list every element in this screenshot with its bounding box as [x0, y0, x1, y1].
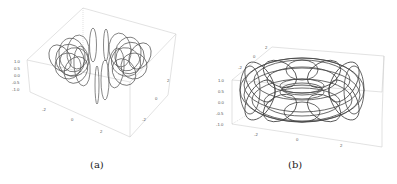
- svg-text:0: 0: [253, 54, 256, 59]
- plot-a: 1.0 0.5 0.0 -0.5 -1.0 -2 0 2 2 0 -2: [0, 0, 200, 184]
- torus-curves-b: [239, 55, 366, 128]
- figure-panel-b: 1.0 0.5 0.0 -0.5 -1.0 -2 0 2 -2 0 2 (b): [200, 0, 397, 184]
- svg-text:0.0: 0.0: [14, 73, 20, 78]
- svg-text:0.5: 0.5: [218, 89, 224, 94]
- svg-text:-1.0: -1.0: [216, 122, 224, 127]
- svg-text:2: 2: [340, 143, 343, 148]
- svg-text:-0.5: -0.5: [216, 111, 224, 116]
- svg-text:0.5: 0.5: [14, 66, 20, 71]
- svg-text:0.0: 0.0: [218, 100, 224, 105]
- svg-text:0: 0: [155, 96, 158, 101]
- svg-text:-2: -2: [254, 132, 258, 137]
- plot-b: 1.0 0.5 0.0 -0.5 -1.0 -2 0 2 -2 0 2: [200, 0, 397, 184]
- svg-text:2: 2: [100, 129, 103, 134]
- svg-text:0: 0: [71, 117, 74, 122]
- svg-text:2: 2: [265, 45, 268, 50]
- caption-a: (a): [90, 159, 104, 170]
- svg-text:1.0: 1.0: [218, 78, 224, 83]
- z-axis-ticks-b: 1.0 0.5 0.0 -0.5 -1.0: [216, 78, 224, 127]
- svg-text:1.0: 1.0: [14, 59, 20, 64]
- figure-panel-a: 1.0 0.5 0.0 -0.5 -1.0 -2 0 2 2 0 -2 (a): [0, 0, 200, 184]
- curve-loops-a: [44, 28, 155, 104]
- svg-text:-0.5: -0.5: [12, 80, 20, 85]
- svg-text:-1.0: -1.0: [12, 87, 20, 92]
- svg-text:-2: -2: [238, 65, 242, 70]
- caption-b: (b): [288, 159, 302, 170]
- y-axis-ticks-a: 2 0 -2: [142, 78, 170, 122]
- z-axis-ticks-a: 1.0 0.5 0.0 -0.5 -1.0: [12, 59, 20, 92]
- svg-text:-2: -2: [42, 107, 46, 112]
- svg-text:0: 0: [296, 137, 299, 142]
